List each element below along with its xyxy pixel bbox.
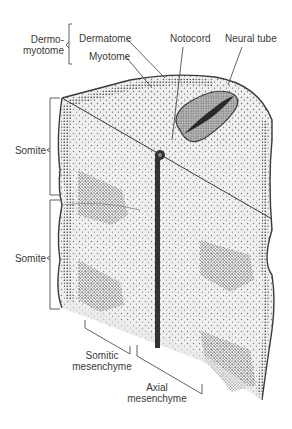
somitic-mesenchyme-label: Somitic mesenchyme	[62, 350, 142, 372]
axial-mesenchyme-label: Axial mesenchyme	[117, 382, 197, 404]
dermomyotome-label-line2: myotome	[20, 45, 64, 56]
myotome-label: Myotome	[89, 51, 130, 62]
somitic-mesenchyme-line2: mesenchyme	[62, 361, 142, 372]
somite-lower-label: Somite	[6, 253, 46, 264]
somite-diagram: Dermo- myotome Dermatome Myotome Notocor…	[0, 0, 292, 429]
notocord-label: Notocord	[170, 33, 211, 44]
dermomyotome-label-line1: Dermo-	[20, 34, 64, 45]
diagram-figure	[0, 0, 292, 429]
somitic-mesenchyme-line1: Somitic	[62, 350, 142, 361]
axial-mesenchyme-line1: Axial	[117, 382, 197, 393]
neural-tube-label: Neural tube	[225, 33, 277, 44]
axial-mesenchyme-line2: mesenchyme	[117, 393, 197, 404]
dermatome-label: Dermatome	[79, 33, 131, 44]
somite-upper-label: Somite	[6, 145, 46, 156]
dermomyotome-label: Dermo- myotome	[20, 34, 64, 56]
